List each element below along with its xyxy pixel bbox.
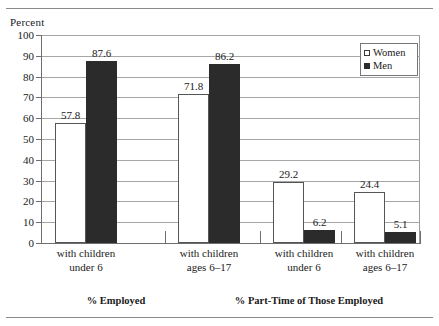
legend-label-men: Men <box>373 59 392 72</box>
y-axis-tick-labels: 0102030405060708090100 <box>0 35 34 244</box>
bar-men-group-0 <box>86 61 117 243</box>
y-axis-tick-label: 80 <box>6 72 34 83</box>
bar-value-label: 86.2 <box>203 51 246 62</box>
supergroup-axis-labels: % Employed% Part-Time of Those Employed <box>41 294 420 310</box>
y-axis-tick-label: 0 <box>6 238 34 249</box>
legend-swatch-men-icon <box>364 63 370 69</box>
y-axis-tick-label: 50 <box>6 134 34 145</box>
y-axis-tick-label: 30 <box>6 176 34 187</box>
legend-swatch-women-icon <box>364 50 370 56</box>
category-label-line1: with children <box>31 246 141 260</box>
y-axis-tick-label: 40 <box>6 155 34 166</box>
bar-men-group-2 <box>304 230 335 243</box>
top-horizontal-rule <box>6 8 433 9</box>
bar-men-group-1 <box>209 64 240 243</box>
y-axis-tick-label: 20 <box>6 196 34 207</box>
category-label-line1: with children <box>154 246 264 260</box>
bar-women-group-2 <box>273 182 304 243</box>
chart-figure: Percent 0102030405060708090100 57.887.67… <box>0 0 439 326</box>
chart-legend: Women Men <box>360 43 418 76</box>
y-axis-tick-label: 60 <box>6 113 34 124</box>
y-axis-tick-label: 10 <box>6 217 34 228</box>
supergroup-label-0: % Employed <box>16 294 216 307</box>
group-separator <box>420 231 421 244</box>
category-label-1: with childrenages 6–17 <box>154 246 264 274</box>
category-label-line2: ages 6–17 <box>330 260 439 274</box>
legend-entry-men: Men <box>364 59 414 72</box>
bar-women-group-0 <box>55 123 86 243</box>
bar-value-label: 24.4 <box>348 179 391 190</box>
legend-entry-women: Women <box>364 46 414 59</box>
bar-value-label: 87.6 <box>80 48 123 59</box>
supergroup-label-1: % Part-Time of Those Employed <box>209 294 409 307</box>
y-axis-tick-label: 70 <box>6 92 34 103</box>
y-axis-tick-label: 100 <box>6 30 34 41</box>
bar-value-label: 6.2 <box>298 217 341 228</box>
category-label-line1: with children <box>330 246 439 260</box>
bar-value-label: 5.1 <box>379 219 422 230</box>
category-label-3: with childrenages 6–17 <box>330 246 439 274</box>
bar-men-group-3 <box>385 232 416 243</box>
category-label-0: with childrenunder 6 <box>31 246 141 274</box>
bottom-horizontal-rule <box>6 317 433 318</box>
gridline <box>41 35 420 36</box>
bar-women-group-3 <box>354 192 385 243</box>
bar-women-group-1 <box>178 94 209 243</box>
category-label-line2: under 6 <box>31 260 141 274</box>
legend-label-women: Women <box>373 46 405 59</box>
y-axis-line <box>41 35 42 244</box>
category-axis-labels: with childrenunder 6with childrenages 6–… <box>41 246 420 280</box>
x-axis-line <box>41 243 420 244</box>
y-axis-unit-label: Percent <box>10 16 44 28</box>
category-label-line2: ages 6–17 <box>154 260 264 274</box>
bar-value-label: 29.2 <box>267 169 310 180</box>
y-axis-tick-label: 90 <box>6 51 34 62</box>
